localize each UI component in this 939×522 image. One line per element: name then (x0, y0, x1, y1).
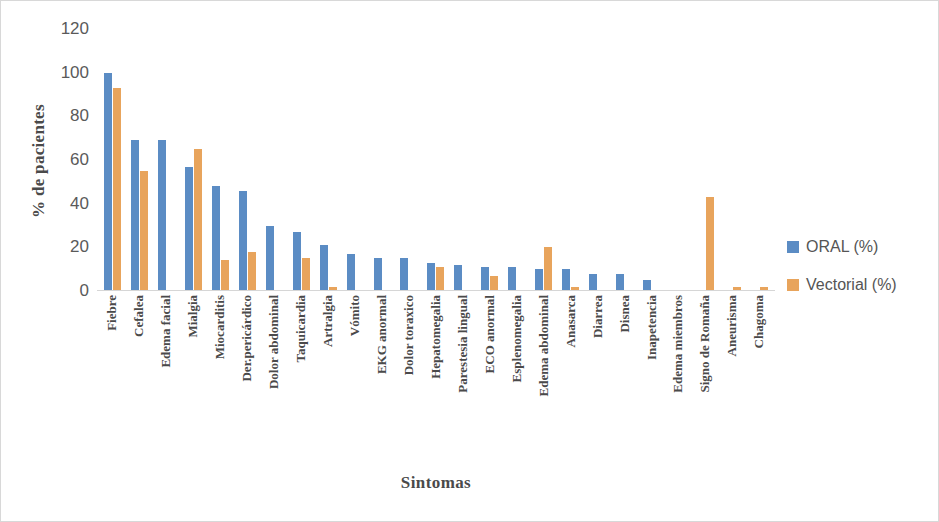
x-axis-label-cell: Artralgia (315, 293, 342, 468)
legend-label: ORAL (%) (806, 238, 878, 256)
x-axis-label-cell: Edema facial (153, 293, 180, 468)
x-axis-label-cell: Mialgia (180, 293, 207, 468)
x-axis-label-cell: Parestesia lingual (449, 293, 476, 468)
x-axis-category-labels: FiebreCefaleaEdema facialMialgiaMiocardi… (97, 293, 775, 468)
x-axis-label: Miocarditis (212, 295, 228, 359)
bar-oral[interactable] (427, 263, 435, 291)
bar-group (584, 29, 611, 291)
x-axis-label: Der.pericárdico (239, 295, 255, 382)
x-axis-label-cell: Esplenomegalia (503, 293, 530, 468)
bar-vectorial[interactable] (544, 247, 552, 291)
x-axis-label: Edema facial (158, 295, 174, 368)
bar-group (395, 29, 422, 291)
bar-oral[interactable] (347, 254, 355, 291)
x-axis-label-cell: Edema abdominal (530, 293, 557, 468)
x-axis-label-cell: Taquicardia (288, 293, 315, 468)
bar-group (126, 29, 153, 291)
bar-oral[interactable] (185, 167, 193, 291)
y-axis-tick-0: 0 (80, 281, 89, 301)
bar-oral[interactable] (562, 269, 570, 291)
bar-oral[interactable] (589, 274, 597, 291)
x-axis-label: Disnea (617, 295, 633, 333)
bar-vectorial[interactable] (436, 267, 444, 291)
x-axis-label: Artralgia (320, 295, 336, 347)
bar-group (611, 29, 638, 291)
bar-group (719, 29, 746, 291)
bar-oral[interactable] (481, 267, 489, 291)
bar-vectorial[interactable] (140, 171, 148, 291)
x-axis-label: Hepatomegalia (428, 295, 444, 379)
x-axis-label: Signo de Romaña (697, 295, 713, 393)
bar-group (638, 29, 665, 291)
bar-vectorial[interactable] (706, 197, 714, 291)
bar-oral[interactable] (212, 186, 220, 291)
x-axis-label-cell: Inapetencia (638, 293, 665, 468)
bar-oral[interactable] (104, 73, 112, 291)
bar-group (557, 29, 584, 291)
x-axis-label: EKG anormal (374, 295, 390, 374)
y-axis-title-text: % de pacientes (29, 104, 49, 218)
y-axis-tick-20: 20 (70, 237, 89, 257)
x-axis-label-cell: Miocarditis (207, 293, 234, 468)
bar-group (369, 29, 396, 291)
bar-group (530, 29, 557, 291)
bar-group (746, 29, 773, 291)
bar-vectorial[interactable] (490, 276, 498, 291)
x-axis-label-cell: ECO anormal (476, 293, 503, 468)
bar-oral[interactable] (535, 269, 543, 291)
bar-group (99, 29, 126, 291)
bar-group (180, 29, 207, 291)
bar-vectorial[interactable] (221, 260, 229, 291)
bar-group (476, 29, 503, 291)
y-axis-title: % de pacientes (19, 61, 59, 261)
x-axis-label-cell: Disnea (611, 293, 638, 468)
bar-group (315, 29, 342, 291)
bar-oral[interactable] (158, 140, 166, 291)
bar-oral[interactable] (320, 245, 328, 291)
bar-group (422, 29, 449, 291)
bar-vectorial[interactable] (248, 252, 256, 291)
x-axis-label-cell: Hepatomegalia (422, 293, 449, 468)
bar-oral[interactable] (616, 274, 624, 291)
bar-group (692, 29, 719, 291)
x-axis-label: ECO anormal (482, 295, 498, 373)
bar-oral[interactable] (239, 191, 247, 291)
bar-oral[interactable] (293, 232, 301, 291)
x-axis-label: Dolor toraxico (401, 295, 417, 375)
x-axis-title: Sintomas (97, 473, 775, 493)
x-axis-label: Inapetencia (644, 295, 660, 360)
bar-oral[interactable] (266, 226, 274, 292)
x-axis-label: Dolor abdominal (266, 295, 282, 389)
x-axis-label-cell: Signo de Romaña (692, 293, 719, 468)
y-axis-tick-100: 100 (61, 63, 89, 83)
x-axis-label-cell: Vómito (342, 293, 369, 468)
x-axis-label: Taquicardia (293, 295, 309, 362)
bar-oral[interactable] (454, 265, 462, 291)
bar-vectorial[interactable] (302, 258, 310, 291)
x-axis-label: Fiebre (104, 295, 120, 331)
x-axis-label-cell: Chagoma (746, 293, 773, 468)
bar-oral[interactable] (374, 258, 382, 291)
x-axis-label: Diarrea (590, 295, 606, 338)
x-axis-label: Edema miembros (670, 295, 686, 393)
x-axis-label: Esplenomegalia (509, 295, 525, 382)
x-axis-label-cell: Aneurisma (719, 293, 746, 468)
legend-label: Vectorial (%) (806, 276, 897, 294)
legend-item[interactable]: ORAL (%) (787, 238, 897, 256)
x-axis-label-cell: Cefalea (126, 293, 153, 468)
bar-oral[interactable] (508, 267, 516, 291)
bar-group (207, 29, 234, 291)
bar-oral[interactable] (131, 140, 139, 291)
bar-group (288, 29, 315, 291)
plot-area: 020406080100120 (97, 29, 775, 291)
bar-vectorial[interactable] (194, 149, 202, 291)
legend-item[interactable]: Vectorial (%) (787, 276, 897, 294)
x-axis-label: Aneurisma (724, 295, 740, 356)
bar-vectorial[interactable] (113, 88, 121, 291)
x-axis-label-cell: Fiebre (99, 293, 126, 468)
x-axis-label-cell: Anasarca (557, 293, 584, 468)
chart-figure: % de pacientes 020406080100120 FiebreCef… (0, 0, 939, 522)
bar-group (261, 29, 288, 291)
bar-oral[interactable] (400, 258, 408, 291)
bar-group (234, 29, 261, 291)
